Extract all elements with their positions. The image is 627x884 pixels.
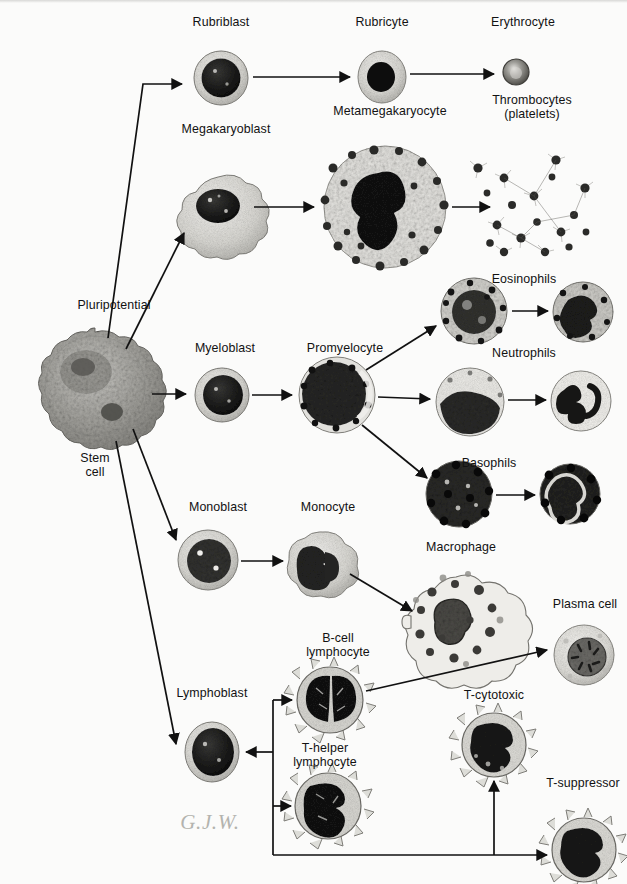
- label-thrombocytes: Thrombocytes (platelets): [492, 93, 572, 121]
- label-monocyte: Monocyte: [301, 500, 356, 514]
- label-macrophage: Macrophage: [426, 540, 496, 554]
- label-metamegakaryocyte: Metamegakaryocyte: [333, 104, 446, 118]
- label-basophils: Basophils: [462, 456, 517, 470]
- label-monoblast: Monoblast: [189, 500, 247, 514]
- label-pluripotential: Pluripotential: [77, 298, 150, 312]
- label-promyelocyte: Promyelocyte: [307, 341, 383, 355]
- label-eosinophils: Eosinophils: [492, 272, 556, 286]
- label-stem-cell: Stem cell: [80, 451, 109, 479]
- label-megakaryoblast: Megakaryoblast: [182, 122, 271, 136]
- label-lymphoblast: Lymphoblast: [177, 686, 248, 700]
- arrow-bcell-to-plasma-cell: [366, 650, 547, 691]
- label-myeloblast: Myeloblast: [195, 341, 255, 355]
- label-t-suppressor: T-suppressor: [546, 776, 620, 790]
- label-t-helper-lymphocyte: T-helper lymphocyte: [293, 741, 357, 769]
- artist-signature: G.J.W.: [180, 810, 239, 835]
- arrow-stem-to-monoblast: [133, 429, 176, 540]
- label-rubriblast: Rubriblast: [193, 15, 250, 29]
- arrow-promyelocyte-to-basophil: [362, 425, 427, 478]
- label-neutrophils: Neutrophils: [492, 346, 556, 360]
- label-rubricyte: Rubricyte: [355, 15, 408, 29]
- arrow-monocyte-to-macrophage: [350, 574, 412, 611]
- arrow-promyelocyte-to-neutrophil: [378, 397, 430, 399]
- label-b-cell-lymphocyte: B-cell lymphocyte: [306, 631, 370, 659]
- label-t-cytotoxic: T-cytotoxic: [464, 688, 524, 702]
- label-erythrocyte: Erythrocyte: [491, 15, 555, 29]
- arrow-stem-to-lymphoblast: [116, 441, 176, 744]
- label-plasma-cell: Plasma cell: [553, 597, 617, 611]
- hematopoiesis-figure: Pluripotential Stem cell Rubriblast Rubr…: [0, 0, 627, 884]
- arrow-stem-to-megakaryoblast: [126, 233, 184, 349]
